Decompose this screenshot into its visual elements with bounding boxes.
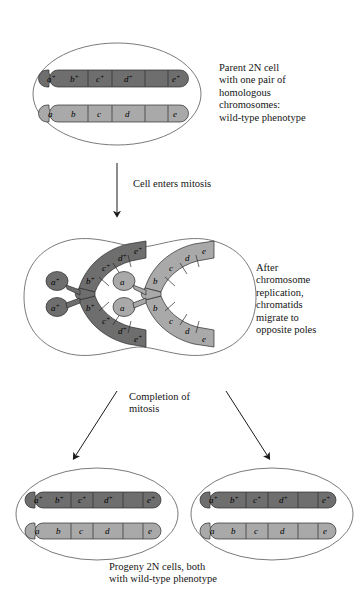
progeny-cell-right: a+ b+ c+ d+ e+ a b c d e bbox=[191, 468, 353, 560]
allele-label: c bbox=[169, 263, 173, 273]
allele-label: a bbox=[120, 277, 125, 287]
allele-label: a bbox=[120, 303, 125, 313]
allele-label: d bbox=[105, 526, 110, 536]
allele-label: d bbox=[280, 526, 285, 536]
parent-cell-membrane bbox=[33, 43, 201, 145]
allele-label: e bbox=[148, 526, 152, 536]
caption-completion-of-mitosis: Completion of mitosis bbox=[129, 391, 249, 416]
right-progeny-chromosome-dark: a+ b+ c+ d+ e+ bbox=[200, 492, 336, 508]
allele-label: d bbox=[125, 109, 130, 119]
left-progeny-membrane bbox=[16, 468, 178, 560]
parent-chromosome-dark: a+ b+ c+ d+ e+ bbox=[39, 70, 189, 87]
allele-label: c bbox=[97, 109, 101, 119]
allele-label: a bbox=[210, 526, 215, 536]
caption-after-replication: After chromosome replication, chromatids… bbox=[256, 262, 361, 336]
progeny-cell-left: a+ b+ c+ d+ e+ a b c d e bbox=[16, 468, 178, 560]
allele-label: c bbox=[254, 526, 258, 536]
allele-label: e bbox=[173, 109, 177, 119]
allele-label: b bbox=[56, 526, 61, 536]
allele-label: b bbox=[153, 303, 158, 313]
allele-label: d bbox=[185, 253, 190, 263]
left-progeny-chromosome-dark: a+ b+ c+ d+ e+ bbox=[25, 492, 161, 508]
allele-label: d bbox=[185, 326, 190, 336]
caption-progeny-cells: Progeny 2N cells, both with wild-type ph… bbox=[109, 561, 309, 586]
caption-enters-mitosis: Cell enters mitosis bbox=[133, 178, 283, 190]
arrow-to-left-progeny bbox=[76, 391, 117, 455]
parent-cell: a+ b+ c+ d+ e+ a b c d e bbox=[33, 43, 201, 145]
allele-label: b bbox=[71, 109, 76, 119]
allele-label: a bbox=[35, 526, 40, 536]
allele-label: c bbox=[79, 526, 83, 536]
dividing-cell: a+ b+ c+ d+ e+ a+ b+ c+ d+ e+ bbox=[24, 239, 256, 356]
allele-label: e bbox=[202, 246, 206, 256]
allele-label: e bbox=[202, 334, 206, 344]
parent-chromosome-light: a b c d e bbox=[39, 105, 189, 122]
caption-parent-cell: Parent 2N cell with one pair of homologo… bbox=[219, 62, 359, 124]
allele-label: b bbox=[153, 276, 158, 286]
allele-label: a bbox=[48, 109, 53, 119]
allele-label: c bbox=[169, 316, 173, 326]
allele-label: b bbox=[231, 526, 236, 536]
right-progeny-membrane bbox=[191, 468, 353, 560]
left-progeny-chromosome-light: a b c d e bbox=[25, 523, 161, 539]
allele-label: e bbox=[323, 526, 327, 536]
right-progeny-chromosome-light: a b c d e bbox=[200, 523, 336, 539]
